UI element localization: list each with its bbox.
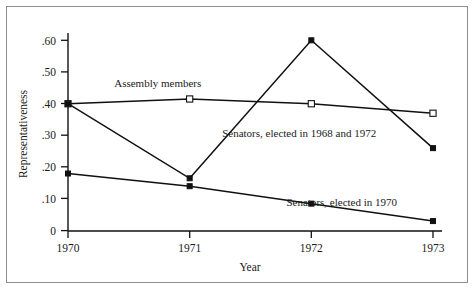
series-annotation-0: Assembly members: [114, 77, 201, 89]
x-axis-tick-labels: 1970 1971 1972 1973: [57, 242, 445, 254]
y-tick-label-0.20: .20: [42, 161, 57, 173]
series-annotation-2: Senators, elected in 1970: [286, 196, 397, 208]
y-tick-label-0.30: .30: [42, 129, 57, 141]
data-point-marker[interactable]: [187, 96, 193, 102]
x-axis-title: Year: [239, 261, 260, 273]
series-line-0: [68, 99, 433, 113]
x-tick-label-1971: 1971: [178, 242, 201, 254]
series-0: [65, 96, 436, 116]
y-tick-label-0.40: .40: [42, 98, 57, 110]
y-axis-title: Representativeness: [17, 89, 30, 178]
y-axis-tick-labels: .60 .50 .40 .30 .20 .10 0: [42, 35, 57, 237]
x-tick-label-1970: 1970: [57, 242, 80, 254]
x-tick-label-1973: 1973: [422, 242, 445, 254]
data-point-marker[interactable]: [431, 219, 436, 224]
x-tick-label-1972: 1972: [300, 242, 323, 254]
data-point-marker[interactable]: [309, 38, 314, 43]
y-tick-label-0.60: .60: [42, 35, 57, 47]
figure-container: .60 .50 .40 .30 .20 .10 0 1970 1971 1972…: [0, 0, 474, 289]
data-point-marker[interactable]: [430, 110, 436, 116]
data-point-marker[interactable]: [66, 171, 71, 176]
x-axis-ticks: [68, 231, 433, 238]
y-axis-ticks: [61, 40, 68, 230]
data-point-marker[interactable]: [187, 176, 192, 181]
data-point-marker[interactable]: [187, 184, 192, 189]
annotation-layer: Assembly membersSenators, elected in 196…: [114, 77, 397, 208]
y-tick-label-0.50: .50: [42, 66, 57, 78]
line-chart-plot: .60 .50 .40 .30 .20 .10 0 1970 1971 1972…: [0, 0, 474, 289]
data-point-marker[interactable]: [66, 101, 71, 106]
data-point-marker[interactable]: [431, 146, 436, 151]
data-point-marker[interactable]: [308, 101, 314, 107]
y-tick-label-0: 0: [50, 225, 56, 237]
series-annotation-1: Senators, elected in 1968 and 1972: [222, 127, 376, 139]
y-tick-label-0.10: .10: [42, 193, 57, 205]
